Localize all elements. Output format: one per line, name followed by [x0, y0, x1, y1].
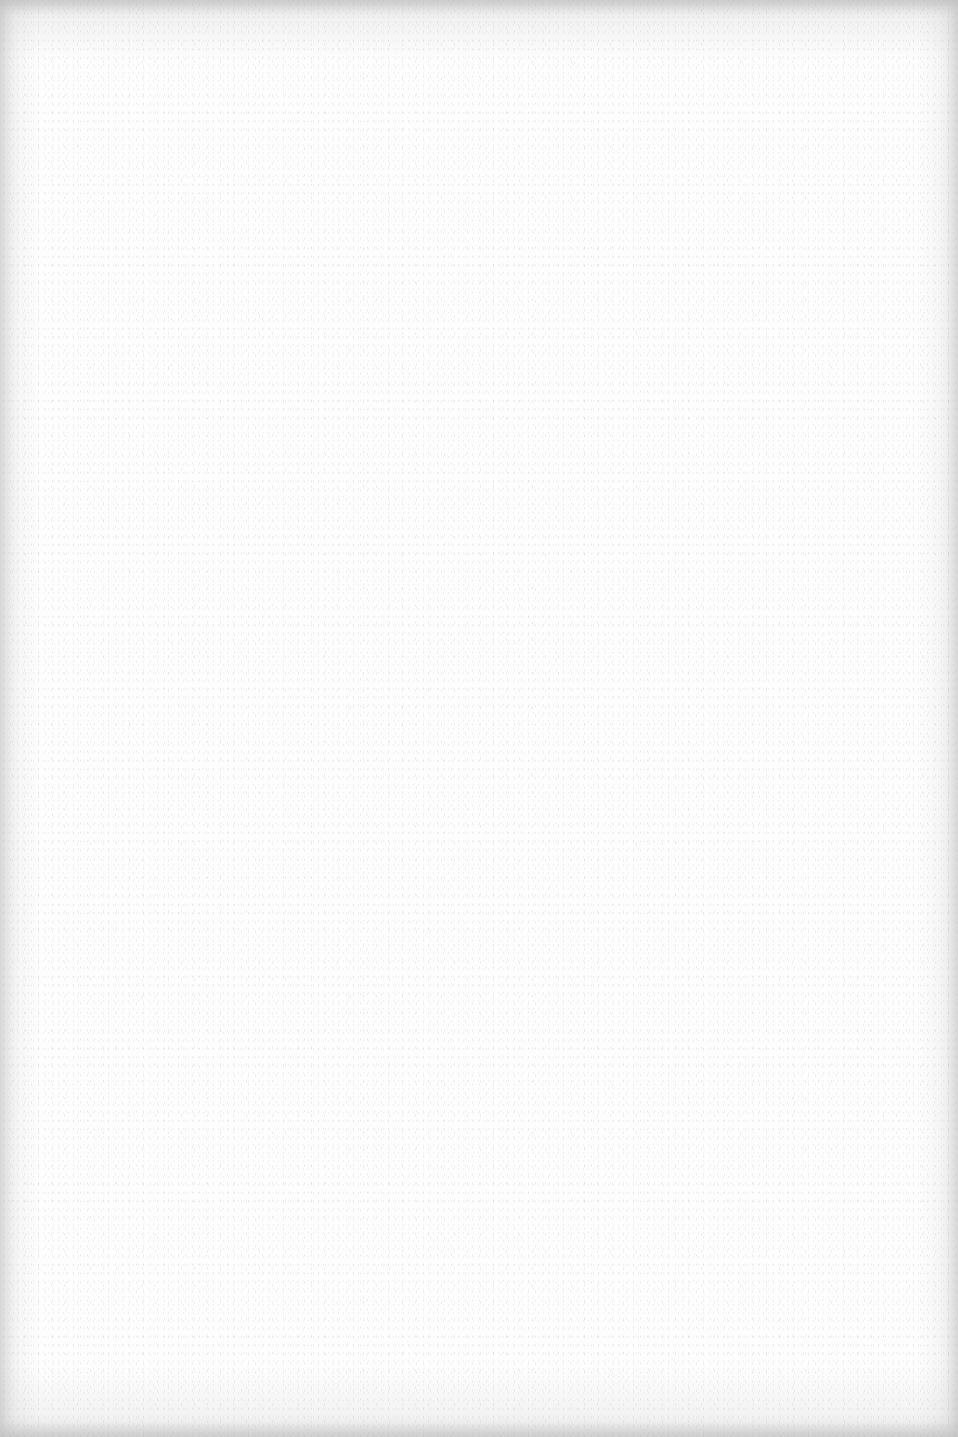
page-content-area [40, 40, 918, 1397]
blank-paper-page [0, 0, 958, 1437]
